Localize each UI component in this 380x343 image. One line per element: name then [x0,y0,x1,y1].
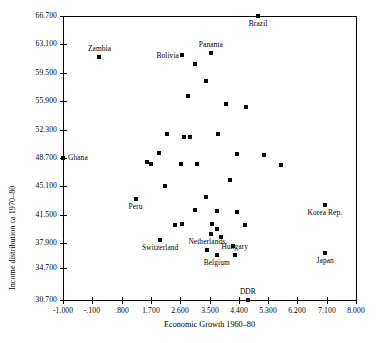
data-point [180,53,184,57]
data-point [188,135,192,139]
data-point [180,222,184,226]
x-axis-tick-mark [327,297,328,304]
data-point [209,232,213,236]
data-point [182,135,186,139]
y-axis-tick-mark [60,73,67,74]
data-point [262,153,266,157]
x-axis-tick-label: 8.000 [334,307,378,315]
data-point [235,152,239,156]
data-point [173,223,177,227]
data-point [158,238,162,242]
data-point [195,162,199,166]
y-axis-tick-mark [60,186,67,187]
y-axis-tick-label: 34.700 [13,264,57,272]
y-axis-tick-mark [60,215,67,216]
data-point-label: Korea Rep. [308,209,343,216]
scatter-plot-figure: 66.70063.10059.50055.90052.30048.70045.1… [0,0,380,343]
data-point-label: Japan [317,257,334,264]
y-axis-tick-mark [60,16,67,17]
data-point-label: Ghana [68,154,88,161]
x-axis-title: Economic Growth 1960–80 [23,321,380,329]
data-point [204,79,208,83]
x-axis-tick-mark [210,297,211,304]
data-point [149,162,153,166]
y-axis-tick-mark [60,101,67,102]
data-point [224,102,228,106]
data-point [243,223,247,227]
data-point [186,94,190,98]
data-point-label: Brazil [249,20,268,27]
data-point [205,248,209,252]
data-point [193,62,197,66]
x-axis-tick-mark [268,297,269,304]
data-point [235,210,239,214]
y-axis-tick-mark [60,130,67,131]
y-axis-tick-label: 66.700 [13,12,57,20]
data-point-label: DDR [240,288,256,295]
x-axis-tick-mark [297,297,298,304]
data-point [244,105,248,109]
y-axis-title: Income distribution ca 1970–80 [9,186,17,290]
data-point [165,132,169,136]
data-point [256,14,260,18]
x-axis-tick-mark [92,297,93,304]
x-axis-tick-mark [180,297,181,304]
y-axis-tick-label: 63.100 [13,40,57,48]
data-point [61,156,65,160]
data-point [163,184,167,188]
data-point [215,209,219,213]
data-point-label: Netherlands [188,238,225,245]
y-axis-tick-label: 30.700 [13,296,57,304]
data-point [193,208,197,212]
data-point [323,251,327,255]
data-point [228,178,232,182]
data-point-label: Panama [199,41,223,48]
data-point [204,195,208,199]
plot-border-right [356,16,357,301]
data-point [210,222,214,226]
data-point-label: Hungary [221,243,248,250]
y-axis-tick-label: 55.900 [13,97,57,105]
y-axis-tick-label: 52.300 [13,126,57,134]
y-axis-tick-mark [60,268,67,269]
data-point [179,162,183,166]
data-point [233,253,237,257]
y-axis-tick-label: 59.500 [13,69,57,77]
data-point-label: Belgium [204,259,230,266]
x-axis-tick-mark [122,297,123,304]
data-point [246,298,250,302]
y-axis-tick-label: 41.500 [13,211,57,219]
data-point [215,227,219,231]
data-point [216,132,220,136]
y-axis-tick-label: 45.100 [13,182,57,190]
data-point-label: Peru [129,203,143,210]
data-point [279,163,283,167]
x-axis-tick-mark [151,297,152,304]
data-point [215,253,219,257]
data-point [209,51,213,55]
data-point [323,203,327,207]
data-point [157,151,161,155]
data-point-label: Bolivia [156,52,178,59]
y-axis-tick-label: 37.900 [13,239,57,247]
data-point [134,197,138,201]
data-point [145,160,149,164]
data-point [97,55,101,59]
x-axis-tick-mark [63,297,64,304]
x-axis-tick-mark [239,297,240,304]
y-axis-tick-label: 48.700 [13,154,57,162]
x-axis-tick-mark [356,297,357,304]
y-axis-tick-mark [60,44,67,45]
data-point-label: Switzerland [142,244,178,251]
data-point-label: Zambia [88,45,111,52]
y-axis-tick-mark [60,243,67,244]
plot-border-top [63,16,357,17]
